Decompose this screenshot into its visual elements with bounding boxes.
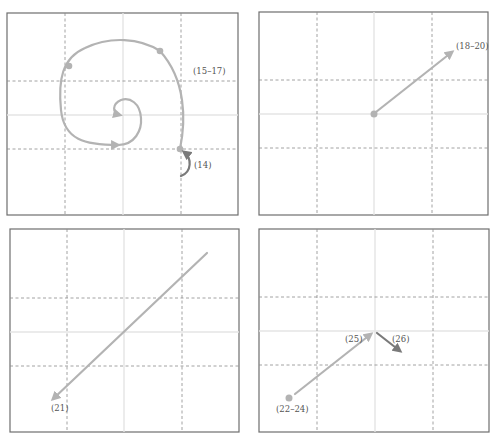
trajectory-marker xyxy=(66,63,73,70)
panel-2: (18–20) xyxy=(259,12,489,215)
trajectory-start-marker xyxy=(286,395,293,402)
label-15-17: (15–17) xyxy=(193,66,226,76)
label-14: (14) xyxy=(194,160,211,170)
label-21: (21) xyxy=(51,403,68,413)
label-18-20: (18–20) xyxy=(456,41,489,51)
figure-canvas: (15–17) (14) (18–20) (21) xyxy=(0,0,499,443)
label-25: (25) xyxy=(345,334,362,344)
trajectory-marker xyxy=(157,48,164,55)
panel-3: (21) xyxy=(10,229,239,432)
label-26: (26) xyxy=(392,334,409,344)
panel-4: (22–24) (25) (26) xyxy=(259,229,489,432)
label-22-24: (22–24) xyxy=(276,404,309,414)
trajectory-start-marker xyxy=(177,146,184,153)
panel-1: (15–17) (14) xyxy=(7,13,238,215)
